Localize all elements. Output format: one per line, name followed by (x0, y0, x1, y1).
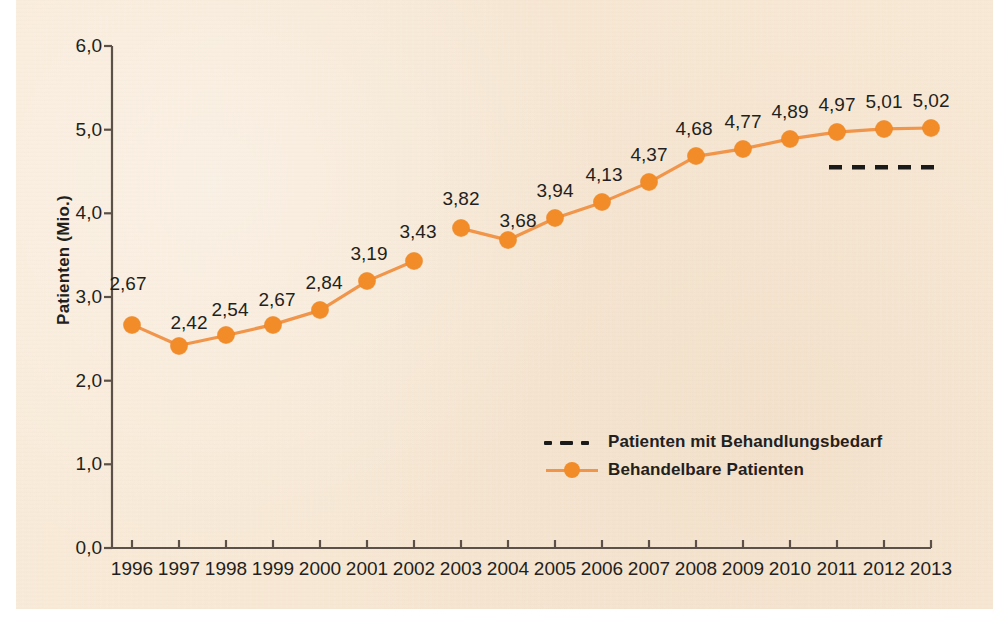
data-point-label: 4,37 (631, 144, 668, 166)
y-tick-label: 5,0 (56, 119, 102, 141)
data-point-marker (829, 124, 846, 141)
x-tick-label: 2011 (817, 558, 858, 580)
x-tick-label: 2001 (346, 558, 388, 580)
data-point-marker (923, 119, 940, 136)
data-point-marker (876, 120, 893, 137)
legend-item-treatable: Behandelbare Patienten (544, 456, 882, 484)
legend-line-marker-key-icon (544, 460, 600, 480)
data-point-marker (124, 316, 141, 333)
x-tick-label: 2008 (675, 558, 717, 580)
data-point-label: 4,77 (725, 111, 762, 133)
data-point-label: 2,42 (171, 312, 208, 334)
data-point-marker (735, 140, 752, 157)
data-point-marker (171, 337, 188, 354)
data-point-marker (500, 232, 517, 249)
data-point-marker (312, 302, 329, 319)
y-axis-ticks (104, 46, 112, 548)
data-point-marker (406, 253, 423, 270)
x-tick-label: 2006 (581, 558, 623, 580)
x-tick-label: 2010 (769, 558, 811, 580)
data-point-label: 4,13 (586, 164, 623, 186)
data-point-label: 5,01 (866, 91, 903, 113)
y-tick-label: 2,0 (56, 370, 102, 392)
data-point-label: 3,94 (537, 180, 574, 202)
x-tick-label: 2013 (910, 558, 952, 580)
data-point-label: 2,67 (259, 289, 296, 311)
data-point-label: 3,68 (500, 210, 537, 232)
data-point-label: 2,67 (110, 273, 147, 295)
data-point-label: 2,84 (306, 272, 343, 294)
legend-label-treatable: Behandelbare Patienten (608, 460, 804, 480)
data-point-marker (641, 174, 658, 191)
x-tick-label: 1998 (205, 558, 247, 580)
data-point-label: 3,43 (400, 221, 437, 243)
x-axis-ticks (132, 540, 931, 548)
x-tick-label: 2000 (299, 558, 341, 580)
x-tick-label: 2005 (534, 558, 576, 580)
x-tick-label: 1996 (111, 558, 153, 580)
x-tick-label: 2007 (628, 558, 670, 580)
data-point-label: 4,68 (676, 118, 713, 140)
data-point-marker (782, 130, 799, 147)
data-point-label: 4,89 (772, 101, 809, 123)
y-tick-labels: 0,0 1,0 2,0 3,0 4,0 5,0 6,0 (56, 0, 102, 631)
x-tick-label: 2003 (440, 558, 482, 580)
legend-label-demand: Patienten mit Behandlungsbedarf (608, 432, 882, 452)
x-tick-label: 1999 (252, 558, 294, 580)
data-point-marker (547, 210, 564, 227)
legend-item-demand: Patienten mit Behandlungsbedarf (544, 428, 882, 456)
y-tick-label: 0,0 (56, 537, 102, 559)
data-point-marker (218, 327, 235, 344)
y-tick-label: 6,0 (56, 35, 102, 57)
y-tick-label: 4,0 (56, 202, 102, 224)
legend-dashed-key-icon (544, 432, 600, 452)
x-tick-label: 2002 (393, 558, 435, 580)
chart-page: Patienten (Mio.) (0, 0, 993, 631)
data-point-marker (688, 148, 705, 165)
y-tick-label: 3,0 (56, 286, 102, 308)
x-tick-label: 2004 (487, 558, 529, 580)
data-point-label: 4,97 (819, 94, 856, 116)
data-point-label: 2,54 (212, 299, 249, 321)
x-tick-label: 2012 (863, 558, 905, 580)
data-point-marker (359, 273, 376, 290)
data-point-label: 3,82 (443, 188, 480, 210)
data-point-label: 5,02 (913, 90, 950, 112)
data-point-marker (594, 194, 611, 211)
data-point-marker (453, 220, 470, 237)
data-point-marker (265, 316, 282, 333)
chart-legend: Patienten mit Behandlungsbedarf Behandel… (544, 428, 882, 484)
x-tick-label: 2009 (722, 558, 764, 580)
plot-area: Patienten (Mio.) (0, 0, 993, 631)
data-point-label: 3,19 (351, 243, 388, 265)
x-tick-label: 1997 (158, 558, 200, 580)
y-tick-label: 1,0 (56, 453, 102, 475)
